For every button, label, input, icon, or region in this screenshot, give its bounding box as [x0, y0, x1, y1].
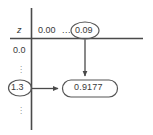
result-value: 0.9177 — [74, 83, 103, 92]
column-header-ellipsis: ... — [62, 26, 71, 35]
column-header-highlighted: 0.09 — [75, 26, 93, 35]
row-header-first: 0.0 — [13, 46, 26, 55]
corner-label-z: z — [17, 26, 22, 35]
column-header-first: 0.00 — [38, 26, 56, 35]
row-ellipsis-upper: . . . — [17, 63, 25, 73]
row-ellipsis-lower: . . . — [17, 104, 25, 114]
z-table-lookup-diagram: z 0.00 ... 0.09 0.0 . . . 1.3 . . . 0.91… — [0, 0, 153, 135]
row-header-highlighted: 1.3 — [11, 83, 24, 92]
